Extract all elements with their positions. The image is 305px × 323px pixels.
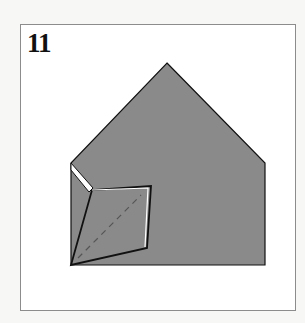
origami-diagram: [0, 0, 305, 323]
